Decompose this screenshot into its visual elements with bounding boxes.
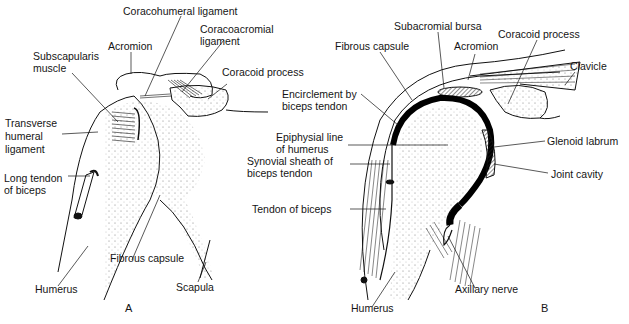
panel-a-drawing [58,72,268,300]
panel-letter-a: A [125,302,132,314]
label-humerus-b: Humerus [351,302,394,314]
label-glenoid-labrum: Glenoid labrum [547,135,618,147]
label-coracoid-process-b: Coracoid process [498,28,580,40]
label-synovial-sheath-1: Synovial sheath of [247,155,333,167]
label-epiphysial-line-2: of humerus [276,143,329,155]
label-subscapularis-2: muscle [33,62,66,74]
label-transverse-3: ligament [5,143,45,155]
label-acromion-a: Acromion [108,40,152,52]
label-clavicle: Clavicle [570,60,607,72]
label-joint-cavity: Joint cavity [551,168,603,180]
label-epiphysial-line-1: Epiphysial line [276,131,343,143]
label-coracoid-process-a: Coracoid process [222,66,304,78]
label-subscapularis-1: Subscapularis [33,50,99,62]
label-coracoacromial-ligament-2: ligament [200,35,240,47]
label-encirclement-2: biceps tendon [282,100,347,112]
label-coracohumeral-ligament: Coracohumeral ligament [123,5,237,17]
panel-b-drawing [360,50,580,300]
label-fibrous-capsule-a: Fibrous capsule [110,252,184,264]
label-long-tendon-1: Long tendon [4,172,62,184]
label-encirclement-1: Encirclement by [282,88,357,100]
label-fibrous-capsule-b: Fibrous capsule [335,40,409,52]
label-tendon-of-biceps: Tendon of biceps [252,203,331,215]
label-humerus-a: Humerus [35,283,78,295]
label-coracoacromial-ligament-1: Coracoacromial [200,23,274,35]
label-subacromial-bursa: Subacromial bursa [394,20,482,32]
label-transverse-1: Transverse [5,117,57,129]
label-synovial-sheath-2: biceps tendon [247,167,312,179]
label-axillary-nerve: Axillary nerve [455,283,518,295]
panel-letter-b: B [541,302,548,314]
label-long-tendon-2: of biceps [4,184,46,196]
label-scapula: Scapula [176,281,214,293]
label-acromion-b: Acromion [454,40,498,52]
label-transverse-2: humeral [5,130,43,142]
